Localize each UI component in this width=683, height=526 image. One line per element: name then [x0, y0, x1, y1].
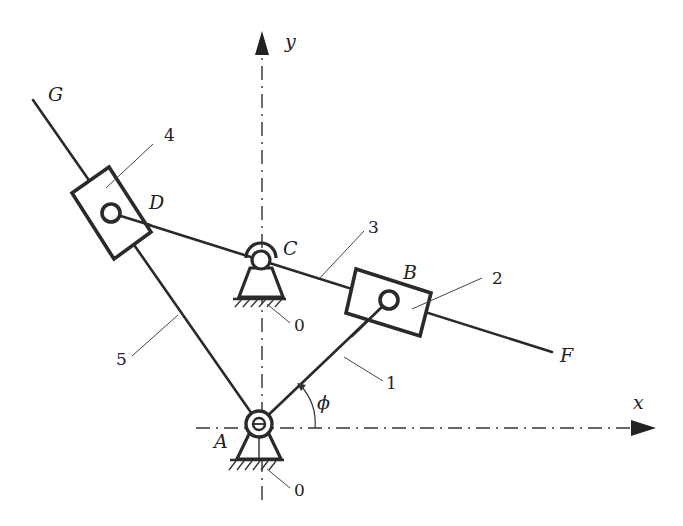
angle-phi-arc — [297, 383, 315, 428]
part-number-2: 2 — [492, 268, 503, 288]
point-B-label: B — [402, 261, 417, 283]
link-3-rocker — [111, 213, 552, 352]
link-5-guide — [33, 100, 259, 424]
angle-phi-label: ϕ — [317, 391, 330, 413]
pin-C-icon — [252, 251, 270, 269]
point-A-label: A — [212, 430, 228, 452]
y-axis-label: y — [284, 30, 296, 52]
y-axis-arrowhead-icon — [255, 31, 269, 55]
point-C-label: C — [283, 237, 298, 259]
part-number-0-C: 0 — [294, 315, 305, 335]
leader-5 — [132, 315, 178, 356]
x-axis-arrowhead-icon — [631, 420, 656, 436]
x-axis-label: x — [633, 391, 644, 413]
point-G-label: G — [48, 83, 63, 105]
pin-D-icon — [102, 204, 120, 222]
leader-4 — [106, 144, 153, 188]
point-D-label: D — [148, 191, 164, 213]
mechanism-diagram: y x G D C B F A ϕ 4 5 3 2 1 0 0 — [0, 0, 683, 526]
part-number-0-A: 0 — [294, 480, 305, 500]
leader-0-A — [267, 469, 290, 488]
part-number-1: 1 — [386, 373, 397, 393]
ground-support-A — [229, 411, 284, 470]
part-number-5: 5 — [116, 349, 127, 369]
pin-B-icon — [380, 291, 398, 309]
leader-1 — [344, 357, 383, 381]
point-F-label: F — [559, 344, 574, 366]
part-number-4: 4 — [164, 125, 175, 145]
part-number-3: 3 — [368, 217, 379, 237]
leader-0-C — [267, 304, 290, 323]
